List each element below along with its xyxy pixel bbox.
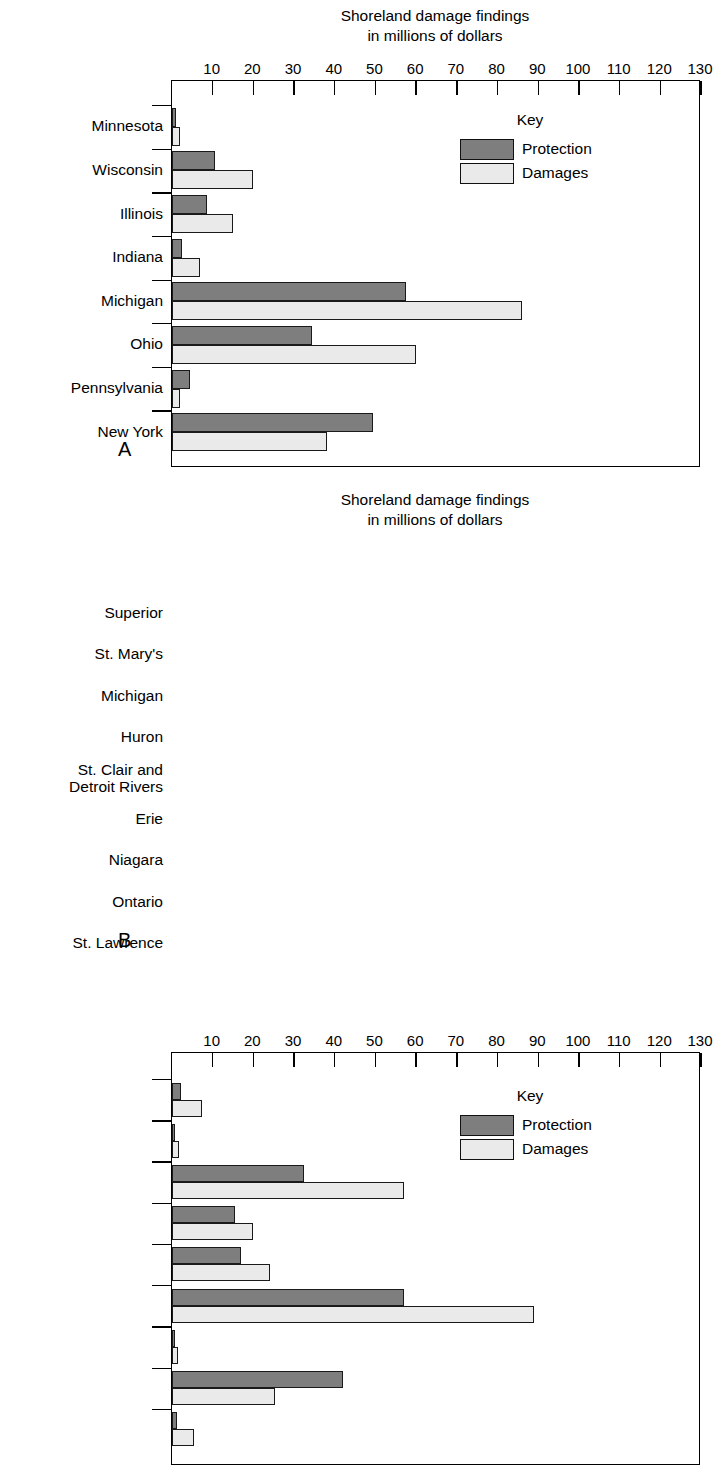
- legend-title: Key: [460, 111, 600, 129]
- chart-a-bars: [172, 81, 699, 466]
- category-separator-tick: [152, 149, 172, 150]
- bar-damages: [172, 1182, 404, 1199]
- bar-protection: [172, 1412, 177, 1429]
- bar-protection: [172, 413, 373, 432]
- chart-a-title: Shoreland damage findings in millions of…: [170, 6, 700, 46]
- chart-a-plot-area: Key Protection Damages: [171, 80, 700, 467]
- bar-damages: [172, 345, 416, 364]
- category-separator-tick: [152, 192, 172, 193]
- bar-protection: [172, 1371, 343, 1388]
- chart-panel-a: Shoreland damage findings in millions of…: [0, 0, 717, 486]
- chart-b-tick-labels: 102030405060708090100110120130: [171, 1032, 700, 1052]
- x-tick-mark: [700, 1053, 701, 1067]
- x-tick-label: 10: [203, 1032, 220, 1049]
- category-separator-tick: [152, 1120, 172, 1121]
- x-tick-label: 130: [687, 1032, 712, 1049]
- legend-swatch-protection: [460, 1115, 514, 1136]
- x-tick-label: 40: [325, 1032, 342, 1049]
- legend-item-damages: Damages: [460, 161, 600, 185]
- category-separator-tick: [152, 1326, 172, 1327]
- chart-b-bars: [172, 1053, 699, 1464]
- category-label: Ohio: [130, 335, 163, 352]
- chart-b-plot-area: Key Protection Damages: [171, 1052, 700, 1465]
- chart-a-axis-labels: 102030405060708090100110120130: [171, 60, 700, 80]
- legend-label-protection: Protection: [522, 1116, 592, 1134]
- category-separator-tick: [152, 1079, 172, 1080]
- x-tick-label: 80: [488, 60, 505, 77]
- chart-category-row: [172, 280, 699, 324]
- x-tick-label: 100: [565, 60, 590, 77]
- legend-label-protection: Protection: [522, 140, 592, 158]
- category-label: Minnesota: [91, 117, 163, 134]
- x-tick-label: 110: [607, 1032, 631, 1049]
- chart-category-row: [172, 1161, 699, 1202]
- x-tick-mark: [700, 81, 701, 95]
- bar-protection: [172, 326, 312, 345]
- x-tick-label: 30: [285, 60, 302, 77]
- x-tick-label: 110: [607, 60, 631, 77]
- bar-damages: [172, 389, 180, 408]
- bar-damages: [172, 1429, 194, 1446]
- x-tick-label: 90: [529, 1032, 546, 1049]
- bar-damages: [172, 170, 253, 189]
- bar-protection: [172, 239, 182, 258]
- category-label: Michigan: [101, 687, 163, 704]
- chart-b-legend: Key Protection Damages: [460, 1087, 600, 1161]
- category-separator-tick: [152, 105, 172, 106]
- bar-protection: [172, 1247, 241, 1264]
- category-label: Wisconsin: [92, 161, 163, 178]
- x-tick-label: 60: [407, 1032, 424, 1049]
- chart-category-row: [172, 1244, 699, 1285]
- bar-damages: [172, 1388, 275, 1405]
- category-label: St. Lawrence: [73, 934, 163, 951]
- chart-panel-b: Shoreland damage findings in millions of…: [0, 486, 717, 1048]
- legend-item-protection: Protection: [460, 1113, 600, 1137]
- chart-category-row: [172, 236, 699, 280]
- category-label: Ontario: [112, 893, 163, 910]
- legend-swatch-damages: [460, 1139, 514, 1160]
- x-tick-label: 70: [448, 60, 465, 77]
- chart-category-row: [172, 1326, 699, 1367]
- chart-category-row: [172, 1120, 699, 1161]
- chart-category-row: [172, 1409, 699, 1450]
- category-label: St. Clair and Detroit Rivers: [69, 761, 163, 795]
- x-tick-label: 120: [647, 60, 672, 77]
- category-separator-tick: [152, 367, 172, 368]
- chart-b-title: Shoreland damage findings in millions of…: [170, 490, 700, 530]
- bar-protection: [172, 1289, 404, 1306]
- category-separator-tick: [152, 280, 172, 281]
- legend-title: Key: [460, 1087, 600, 1105]
- x-tick-label: 40: [325, 60, 342, 77]
- bar-damages: [172, 432, 327, 451]
- legend-label-damages: Damages: [522, 1140, 588, 1158]
- chart-category-row: [172, 410, 699, 454]
- bar-protection: [172, 151, 215, 170]
- x-tick-label: 60: [407, 60, 424, 77]
- bar-damages: [172, 214, 233, 233]
- x-tick-label: 130: [687, 60, 712, 77]
- legend-item-protection: Protection: [460, 137, 600, 161]
- x-tick-label: 100: [565, 1032, 590, 1049]
- chart-category-row: [172, 105, 699, 149]
- bar-damages: [172, 1306, 534, 1323]
- chart-category-row: [172, 323, 699, 367]
- bar-protection: [172, 1083, 181, 1100]
- bar-protection: [172, 370, 190, 389]
- chart-category-row: [172, 1368, 699, 1409]
- bar-protection: [172, 282, 406, 301]
- bar-damages: [172, 1223, 253, 1240]
- chart-a-legend: Key Protection Damages: [460, 111, 600, 185]
- category-separator-tick: [152, 1203, 172, 1204]
- category-label: Niagara: [109, 851, 163, 868]
- category-separator-tick: [152, 1244, 172, 1245]
- bar-protection: [172, 1165, 304, 1182]
- bar-damages: [172, 127, 180, 146]
- x-tick-label: 30: [285, 1032, 302, 1049]
- chart-a-tick-labels: 102030405060708090100110120130: [171, 60, 700, 80]
- chart-category-row: [172, 192, 699, 236]
- category-separator-tick: [152, 1285, 172, 1286]
- chart-category-row: [172, 1079, 699, 1120]
- category-label: Illinois: [120, 205, 163, 222]
- category-label: Superior: [104, 604, 163, 621]
- bar-damages: [172, 1141, 179, 1158]
